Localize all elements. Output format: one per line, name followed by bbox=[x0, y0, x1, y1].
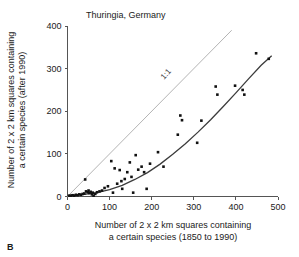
data-point bbox=[113, 167, 116, 170]
data-point bbox=[107, 185, 110, 188]
data-point bbox=[216, 93, 219, 96]
x-axis-title: Number of 2 x 2 km squares containing a … bbox=[95, 220, 252, 242]
data-point bbox=[234, 84, 237, 87]
data-point bbox=[123, 178, 126, 181]
data-point bbox=[120, 180, 123, 183]
data-point bbox=[255, 52, 258, 55]
data-point bbox=[143, 171, 146, 174]
data-point bbox=[241, 89, 244, 92]
data-point bbox=[130, 176, 133, 179]
data-point bbox=[157, 151, 160, 154]
data-point bbox=[243, 93, 246, 96]
y-tick-label: 100 bbox=[46, 149, 61, 159]
one-to-one-label: 1:1 bbox=[159, 67, 173, 82]
data-point bbox=[200, 119, 203, 122]
data-point bbox=[149, 162, 152, 165]
x-tick-label: 200 bbox=[144, 202, 159, 212]
data-point bbox=[181, 119, 184, 122]
data-point bbox=[137, 168, 140, 171]
y-axis-title-line2: a certain species (after 1990) bbox=[17, 52, 27, 169]
figure-panel-b: Thuringia, Germany 0100200300400 0100200… bbox=[0, 0, 299, 257]
data-point bbox=[98, 190, 101, 193]
data-point bbox=[91, 191, 94, 194]
x-tick-label: 0 bbox=[65, 202, 70, 212]
x-axis: 0100200300400500 bbox=[65, 197, 286, 212]
data-point bbox=[140, 165, 143, 168]
data-point bbox=[129, 161, 132, 164]
y-axis-title: Number of 2 x 2 km squares containing a … bbox=[6, 32, 27, 189]
data-point bbox=[177, 133, 180, 136]
fitted-curve bbox=[70, 56, 272, 196]
data-point bbox=[110, 160, 113, 163]
data-point bbox=[179, 114, 182, 117]
x-tick-label: 400 bbox=[228, 202, 243, 212]
y-axis: 0100200300400 bbox=[46, 21, 67, 202]
data-point bbox=[162, 165, 165, 168]
y-tick-label: 300 bbox=[46, 64, 61, 74]
x-tick-label: 100 bbox=[102, 202, 117, 212]
x-tick-label: 300 bbox=[186, 202, 201, 212]
panel-label: B bbox=[7, 242, 14, 252]
data-point bbox=[84, 178, 87, 181]
data-point bbox=[116, 182, 119, 185]
data-point bbox=[145, 188, 148, 191]
y-tick-label: 200 bbox=[46, 106, 61, 116]
data-point bbox=[196, 141, 199, 144]
y-tick-label: 0 bbox=[56, 192, 61, 202]
x-tick-labels: 0100200300400500 bbox=[65, 202, 286, 212]
data-point bbox=[121, 188, 124, 191]
data-point bbox=[134, 154, 137, 157]
data-point bbox=[96, 191, 99, 194]
data-point bbox=[132, 191, 135, 194]
chart-title: Thuringia, Germany bbox=[86, 10, 166, 20]
data-point bbox=[101, 189, 104, 192]
y-axis-title-line1: Number of 2 x 2 km squares containing bbox=[6, 32, 16, 189]
data-point bbox=[118, 169, 121, 172]
y-tick-label: 400 bbox=[46, 21, 61, 31]
scatter-plot: Thuringia, Germany 0100200300400 0100200… bbox=[0, 0, 299, 257]
data-point bbox=[267, 58, 270, 61]
data-point bbox=[112, 191, 115, 194]
x-tick-label: 500 bbox=[270, 202, 285, 212]
y-tick-labels: 0100200300400 bbox=[46, 21, 61, 202]
x-axis-title-line1: Number of 2 x 2 km squares containing bbox=[95, 220, 252, 230]
data-point bbox=[103, 187, 106, 190]
x-axis-title-line2: a certain species (1850 to 1990) bbox=[109, 232, 238, 242]
data-point bbox=[214, 85, 217, 88]
data-point bbox=[126, 171, 129, 174]
